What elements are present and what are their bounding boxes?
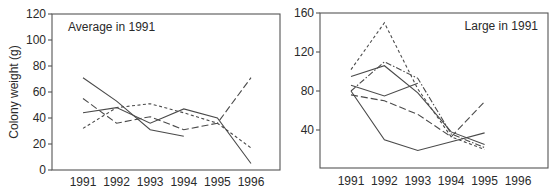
right-y-tick-label: 40 [301,123,315,137]
left-x-tick-label: 1992 [103,175,130,189]
right-y-ticks: 40 80 120 160 [294,6,320,137]
right-chart-title: Large in 1991 [465,19,539,33]
series-line-solid [83,78,184,137]
left-y-tick-label: 0 [39,163,46,177]
series-line-dash-dot [351,62,485,148]
left-y-tick-label: 20 [33,137,47,151]
right-chart: 40 80 120 160 1991 1992 1993 1994 1995 1… [294,6,548,188]
left-y-tick-label: 60 [33,85,47,99]
series-line-long-dash [351,95,485,137]
right-x-ticks: 1991 1992 1993 1994 1995 1996 [338,174,532,188]
left-y-tick-label: 40 [33,111,47,125]
left-y-ticks: 0 20 40 60 80 100 120 [26,7,52,177]
left-y-tick-label: 100 [26,33,46,47]
left-y-tick-label: 80 [33,59,47,73]
left-x-ticks: 1991 1992 1993 1994 1995 1996 [70,175,265,189]
right-x-tick-label: 1993 [404,174,431,188]
right-x-tick-label: 1991 [338,174,365,188]
right-series [351,23,485,151]
right-x-tick-label: 1992 [371,174,398,188]
right-plot-frame [320,13,548,168]
left-x-tick-label: 1996 [238,175,265,189]
right-y-tick-label: 160 [294,6,314,20]
left-x-tick-label: 1994 [170,175,197,189]
series-line-solid [351,66,485,145]
series-line-long-dash [83,78,251,130]
y-axis-label: Colony weight (g) [7,45,21,138]
series-line-solid [83,108,251,164]
right-x-tick-label: 1996 [505,174,532,188]
left-chart: 0 20 40 60 80 100 120 Colony weight (g) … [7,7,280,189]
series-line-short-dash [83,104,251,148]
left-x-tick-label: 1991 [70,175,97,189]
chart-figure: 0 20 40 60 80 100 120 Colony weight (g) … [0,0,554,192]
left-series [83,78,251,164]
right-x-tick-label: 1995 [471,174,498,188]
left-plot-frame [52,14,280,170]
left-x-tick-label: 1995 [204,175,231,189]
left-chart-title: Average in 1991 [68,20,156,34]
left-y-tick-label: 120 [26,7,46,21]
right-x-tick-label: 1994 [438,174,465,188]
series-line-short-dash [351,23,485,150]
right-y-tick-label: 80 [301,84,315,98]
left-x-tick-label: 1993 [137,175,164,189]
right-y-tick-label: 120 [294,45,314,59]
